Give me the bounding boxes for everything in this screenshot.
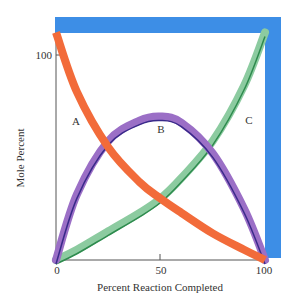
x-axis-label: Percent Reaction Completed <box>97 281 223 293</box>
x-tick-label-100: 100 <box>256 264 273 276</box>
curve-label-c: C <box>245 114 252 126</box>
frame-top-bar <box>55 17 281 33</box>
curve-a <box>56 32 265 260</box>
curve-label-b: B <box>157 123 164 135</box>
x-tick-label-0: 0 <box>54 264 60 276</box>
y-axis-label: Mole Percent <box>14 129 26 188</box>
curve-c <box>56 32 265 264</box>
y-tick-label-100: 100 <box>36 49 53 61</box>
curve-label-a: A <box>72 115 80 127</box>
frame-right-bar <box>265 17 281 258</box>
reaction-progress-chart: 100 0 50 100 Percent Reaction Completed … <box>0 0 292 296</box>
x-tick-label-50: 50 <box>156 264 168 276</box>
